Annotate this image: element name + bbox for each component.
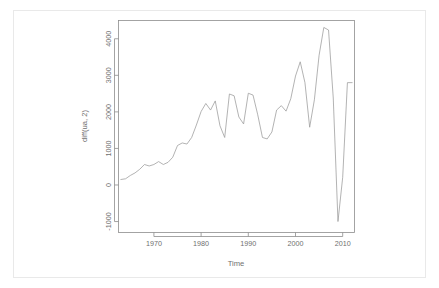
y-axis-title: diff(ua, 2)	[80, 110, 89, 142]
y-tick-label: 3000	[104, 67, 113, 83]
y-tick-label: -1000	[104, 212, 113, 230]
x-tick-label: 1970	[146, 239, 162, 248]
series-line-diff-ua-2	[121, 27, 352, 221]
y-tick-label: 0	[104, 183, 113, 187]
y-tick-label: 4000	[104, 31, 113, 47]
x-tick-label: 1990	[240, 239, 256, 248]
y-axis: -100001000200030004000	[104, 31, 118, 231]
y-tick-label: 1000	[104, 140, 113, 156]
y-tick-label: 2000	[104, 104, 113, 120]
plot-panel-box	[119, 21, 355, 233]
screenshot-page: -100001000200030004000 19701980199020002…	[0, 0, 439, 288]
x-axis: 19701980199020002010	[146, 233, 351, 248]
x-axis-title: Time	[228, 259, 245, 268]
x-tick-label: 1980	[193, 239, 209, 248]
chart-svg: -100001000200030004000 19701980199020002…	[0, 0, 439, 288]
r-plot-figure: -100001000200030004000 19701980199020002…	[0, 0, 439, 288]
x-tick-label: 2000	[288, 239, 304, 248]
series-group	[121, 27, 352, 221]
x-tick-label: 2010	[335, 239, 351, 248]
